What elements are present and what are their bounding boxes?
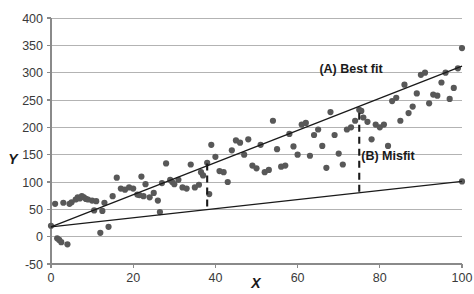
data-point xyxy=(393,95,399,101)
y-tick-label-400: 400 xyxy=(22,12,43,26)
y-axis-title: Y xyxy=(8,151,19,167)
data-point xyxy=(97,230,103,236)
data-point xyxy=(196,182,202,188)
data-point xyxy=(307,153,313,159)
data-point xyxy=(245,136,251,142)
data-point xyxy=(225,179,231,185)
data-point xyxy=(405,110,411,116)
data-point xyxy=(282,163,288,169)
scatter-chart-figure: -50050100150200250300350400 020406080100… xyxy=(0,0,474,294)
data-point xyxy=(163,160,169,166)
data-point xyxy=(451,85,457,91)
chart-canvas: -50050100150200250300350400 020406080100… xyxy=(0,0,474,294)
data-point xyxy=(340,161,346,167)
x-tick-label-80: 80 xyxy=(373,271,387,285)
data-point xyxy=(114,175,120,181)
data-point xyxy=(151,190,157,196)
data-point xyxy=(422,70,428,76)
data-point xyxy=(315,126,321,132)
data-point xyxy=(138,173,144,179)
y-axis-tick-labels: -50050100150200250300350400 xyxy=(22,12,43,272)
data-point xyxy=(270,118,276,124)
y-tick-label-250: 250 xyxy=(22,94,43,108)
data-point xyxy=(303,120,309,126)
x-axis-title: X xyxy=(250,275,262,291)
data-point xyxy=(385,143,391,149)
y-tick-label-200: 200 xyxy=(22,121,43,135)
x-tick-label-0: 0 xyxy=(48,271,55,285)
data-point xyxy=(105,224,111,230)
data-point xyxy=(274,146,280,152)
y-tick-label-100: 100 xyxy=(22,176,43,190)
data-point xyxy=(221,169,227,175)
residual-dashed-lines-group xyxy=(207,110,359,207)
data-point xyxy=(290,143,296,149)
data-point xyxy=(352,118,358,124)
data-point xyxy=(447,96,453,102)
x-tick-label-40: 40 xyxy=(208,271,222,285)
data-point xyxy=(438,79,444,85)
data-point xyxy=(130,185,136,191)
data-point xyxy=(212,154,218,160)
data-point xyxy=(459,45,465,51)
data-point xyxy=(327,109,333,115)
best-fit-label: (A) Best fit xyxy=(319,62,383,76)
data-point xyxy=(414,90,420,96)
data-point xyxy=(188,161,194,167)
y-tick-label-300: 300 xyxy=(22,66,43,80)
trend-line-best-fit xyxy=(51,66,462,227)
x-tick-label-100: 100 xyxy=(452,271,473,285)
data-point xyxy=(311,132,317,138)
data-point xyxy=(52,201,58,207)
data-point xyxy=(336,150,342,156)
data-point xyxy=(140,193,146,199)
data-point xyxy=(368,136,374,142)
x-tick-label-20: 20 xyxy=(126,271,140,285)
data-point xyxy=(348,124,354,130)
data-point xyxy=(64,241,70,247)
data-point xyxy=(323,165,329,171)
chart-annotations-group: (A) Best fit(B) Misfit xyxy=(319,62,415,163)
y-tick-label-350: 350 xyxy=(22,39,43,53)
data-point xyxy=(60,200,66,206)
x-tick-label-60: 60 xyxy=(291,271,305,285)
misfit-label: (B) Misfit xyxy=(361,149,415,163)
data-point xyxy=(319,143,325,149)
data-point xyxy=(397,118,403,124)
data-point xyxy=(434,93,440,99)
data-point xyxy=(295,152,301,158)
trend-line-misfit xyxy=(51,181,462,226)
data-point xyxy=(200,172,206,178)
data-point xyxy=(381,122,387,128)
data-point xyxy=(99,208,105,214)
data-point xyxy=(410,103,416,109)
data-point xyxy=(253,165,259,171)
data-point xyxy=(155,197,161,203)
tickmarks-group xyxy=(47,18,462,268)
data-point xyxy=(229,147,235,153)
data-point xyxy=(426,100,432,106)
data-point xyxy=(401,82,407,88)
y-tick-label--50: -50 xyxy=(25,258,43,272)
axes-group xyxy=(51,18,462,264)
y-tick-label-50: 50 xyxy=(29,203,43,217)
data-point xyxy=(93,198,99,204)
data-point xyxy=(142,181,148,187)
data-point xyxy=(331,132,337,138)
data-point xyxy=(237,140,243,146)
y-tick-label-0: 0 xyxy=(36,230,43,244)
data-point xyxy=(208,142,214,148)
data-point xyxy=(184,185,190,191)
y-tick-label-150: 150 xyxy=(22,148,43,162)
data-point xyxy=(58,239,64,245)
data-point xyxy=(110,193,116,199)
data-point xyxy=(364,119,370,125)
trend-lines-group xyxy=(51,66,462,227)
data-point xyxy=(266,167,272,173)
